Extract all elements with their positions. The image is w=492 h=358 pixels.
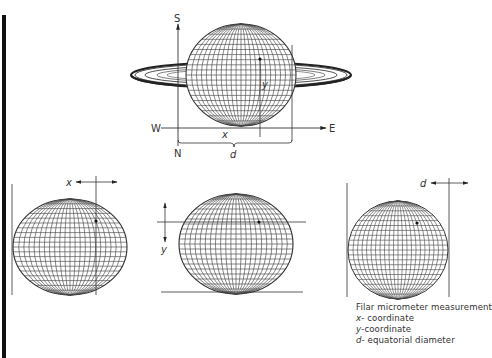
axis-label-south: S bbox=[174, 13, 180, 24]
axis-label-east: E bbox=[329, 123, 335, 134]
label-x: x bbox=[65, 177, 72, 188]
measure-label-y: y bbox=[261, 79, 269, 90]
label-y: y bbox=[160, 244, 168, 255]
legend-item-y: y-coordinate bbox=[356, 324, 492, 335]
legend-item-x: x- coordinate bbox=[356, 313, 492, 324]
measure-label-x: x bbox=[221, 129, 228, 140]
legend-heading: Filar micrometer measurement bbox=[356, 302, 492, 313]
top-panel-saturn: S N W E y x d bbox=[131, 13, 351, 160]
legend-item-d: d- equatorial diameter bbox=[356, 335, 492, 346]
axis-label-north: N bbox=[174, 148, 181, 159]
panel-d-measurement: d bbox=[347, 178, 468, 299]
left-edge-bar bbox=[2, 15, 6, 358]
label-d: d bbox=[420, 178, 427, 189]
saturn-globe bbox=[186, 24, 296, 126]
panel-x-measurement: x bbox=[12, 176, 127, 295]
panel-y-measurement: y bbox=[157, 194, 306, 294]
axis-label-west: W bbox=[151, 123, 161, 134]
measure-label-d: d bbox=[230, 149, 237, 160]
legend: Filar micrometer measurement x- coordina… bbox=[356, 302, 492, 346]
